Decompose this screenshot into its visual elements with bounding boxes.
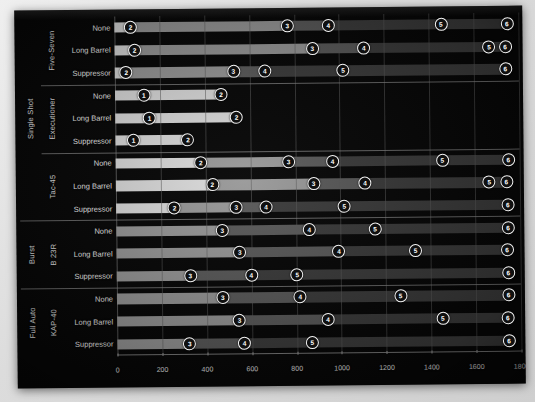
- data-point-marker: 4: [294, 291, 307, 304]
- data-point-marker: 3: [233, 314, 246, 327]
- data-point-marker: 3: [233, 246, 246, 259]
- data-point-marker: 3: [306, 42, 319, 55]
- x-axis-tick-mark: [297, 352, 298, 355]
- data-point-marker: 5: [483, 176, 496, 189]
- x-axis-tick-label: 600: [246, 365, 258, 372]
- weapon-label: Tac-45: [42, 153, 65, 221]
- chart-bar-row: 3456: [117, 335, 521, 349]
- chart-bar-segment: [130, 21, 287, 33]
- data-point-marker: 5: [336, 64, 349, 77]
- data-point-marker: 5: [394, 290, 407, 303]
- data-point-marker: 4: [238, 336, 251, 349]
- data-point-marker: 5: [369, 222, 382, 235]
- chart-bar-segment: [344, 200, 507, 212]
- data-point-marker: 3: [227, 65, 240, 78]
- data-point-marker: 4: [357, 41, 370, 54]
- data-point-marker: 5: [436, 154, 449, 167]
- weapon-label: Five-Seven: [40, 17, 63, 85]
- data-point-marker: 3: [282, 155, 295, 168]
- attachment-label: Long Barrel: [62, 39, 110, 62]
- data-point-marker: 1: [137, 89, 150, 102]
- data-point-marker: 2: [214, 88, 227, 101]
- weapon-label: KAP-40: [43, 288, 66, 356]
- chart-bar-segment: [266, 201, 344, 212]
- attachment-label: Suppressor: [65, 333, 113, 356]
- chart-bar-row: 12: [115, 132, 519, 146]
- attachment-label: Long Barrel: [63, 107, 111, 130]
- x-axis-tick-label: 1000: [334, 364, 350, 371]
- data-point-marker: 6: [500, 243, 513, 256]
- data-point-marker: 3: [281, 20, 294, 33]
- attachment-label: Suppressor: [63, 62, 111, 85]
- attachment-label: None: [64, 220, 112, 243]
- x-axis-tick-mark: [117, 353, 118, 356]
- attachment-label: None: [65, 288, 113, 311]
- data-point-marker: 5: [482, 40, 495, 53]
- x-axis-tick-mark: [432, 350, 433, 353]
- chart-bar-segment: [415, 245, 507, 256]
- chart-bar-segment: [212, 179, 313, 190]
- attachment-label: Suppressor: [65, 265, 113, 288]
- data-point-marker: 1: [127, 134, 140, 147]
- data-point-marker: 5: [291, 268, 304, 281]
- fire-mode-label: Single Shot: [18, 17, 42, 221]
- chart-bar-row: 23456: [116, 177, 520, 191]
- fire-mode-label: Full Auto: [21, 288, 44, 356]
- chart-bar-segment: [265, 66, 343, 77]
- chart-bar-row: 23456: [114, 19, 518, 33]
- chart-bar-segment: [116, 203, 174, 214]
- chart-bar-segment: [309, 224, 375, 235]
- data-point-marker: 3: [184, 269, 197, 282]
- x-axis-tick-label: 1400: [424, 363, 440, 370]
- chart-bar-segment: [116, 247, 239, 258]
- attachment-label: Long Barrel: [64, 175, 112, 198]
- attachment-label: Suppressor: [64, 197, 112, 220]
- chart-photo: Single ShotBurstFull Auto Five-SevenExec…: [14, 6, 526, 389]
- data-point-marker: 2: [230, 110, 243, 123]
- data-point-marker: 6: [502, 289, 515, 302]
- data-point-marker: 5: [436, 312, 449, 325]
- group-separators: [14, 6, 522, 11]
- chart-bar-segment: [150, 112, 237, 123]
- x-axis-tick-label: 1800: [514, 363, 526, 370]
- data-point-marker: 2: [124, 21, 137, 34]
- chart-bar-segment: [364, 42, 489, 53]
- x-axis-tick-label: 0: [116, 366, 120, 373]
- data-point-marker: 6: [502, 153, 515, 166]
- data-point-marker: 3: [307, 178, 320, 191]
- screenshot-page: Single ShotBurstFull Auto Five-SevenExec…: [0, 0, 535, 402]
- data-point-marker: 5: [338, 200, 351, 213]
- data-point-marker: 6: [499, 63, 512, 76]
- x-axis-ticks: 020040060080010001200140016001800: [14, 6, 522, 11]
- x-axis-tick-label: 1200: [379, 364, 395, 371]
- chart-bar-segment: [332, 155, 442, 166]
- data-point-marker: 4: [245, 269, 258, 282]
- x-axis-tick-mark: [521, 350, 522, 353]
- chart-bar-row: 23456: [116, 154, 520, 168]
- data-point-marker: 5: [306, 336, 319, 349]
- chart-bar-row: 3456: [116, 222, 520, 236]
- data-point-marker: 4: [259, 201, 272, 214]
- data-point-marker: 1: [143, 111, 156, 124]
- attachment-axis: NoneLong BarrelSuppressorNoneLong Barrel…: [62, 16, 117, 355]
- chart-bar-segment: [365, 177, 489, 188]
- attachment-label: Suppressor: [63, 130, 111, 153]
- attachment-label: None: [63, 84, 111, 107]
- chart-bar-row: 3456: [117, 267, 521, 281]
- data-point-marker: 4: [303, 223, 316, 236]
- chart-bar-segment: [240, 247, 339, 258]
- data-point-marker: 2: [120, 66, 133, 79]
- chart-bar-segment: [117, 338, 190, 349]
- x-axis-tick-label: 1600: [469, 363, 485, 370]
- chart-bar-segment: [126, 67, 233, 78]
- data-point-marker: 6: [501, 311, 514, 324]
- data-point-marker: 2: [194, 156, 207, 169]
- x-axis-tick-mark: [207, 353, 208, 356]
- chart-bar-segment: [135, 43, 313, 55]
- chart-bar-segment: [190, 270, 251, 281]
- chart-bar-row: 12: [115, 109, 519, 123]
- chart-bar-segment: [401, 290, 509, 301]
- attachment-label: None: [62, 17, 110, 40]
- chart-bar-segment: [375, 222, 508, 233]
- gridline: [518, 13, 522, 352]
